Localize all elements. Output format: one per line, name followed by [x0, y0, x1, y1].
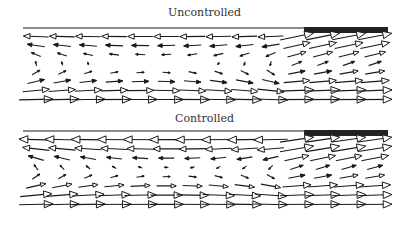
- quiver-panel-uncontrolled: [19, 27, 392, 103]
- quiver-plots: [0, 0, 409, 226]
- quiver-panel-controlled: [19, 130, 392, 208]
